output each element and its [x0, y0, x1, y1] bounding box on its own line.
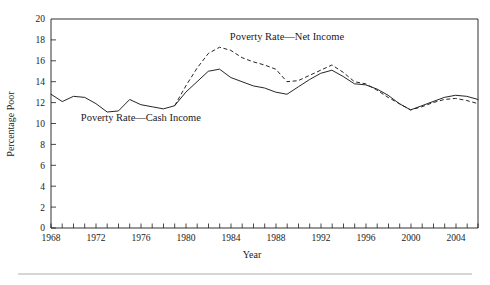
y-tick-label: 8	[40, 140, 45, 150]
y-tick-group-6: 12	[36, 98, 57, 108]
x-tick-label: 1992	[312, 233, 331, 243]
annotation-cash-income: Poverty Rate—Cash Income	[81, 112, 201, 123]
series-line-net-income	[175, 47, 478, 110]
plot-frame	[51, 19, 478, 228]
y-tick-label: 10	[36, 119, 46, 129]
y-tick-group-4: 8	[40, 140, 56, 150]
y-tick-group-1: 2	[40, 203, 56, 213]
axis-spines	[51, 19, 478, 228]
y-tick-group-2: 4	[40, 182, 56, 192]
x-tick-label: 1968	[42, 233, 61, 243]
x-tick-label: 1984	[222, 233, 241, 243]
line-chart: 0 2 4 6 8 10 1	[0, 0, 490, 285]
y-tick-label: 12	[36, 98, 46, 108]
y-tick-label: 20	[36, 14, 46, 24]
y-tick-group-7: 14	[36, 77, 57, 87]
x-tick-label: 1988	[267, 233, 286, 243]
y-tick-group-3: 6	[40, 161, 56, 171]
y-tick-group-0: 0	[40, 223, 56, 233]
y-axis-title: Percentage Poor	[5, 91, 16, 157]
x-tick-label: 2004	[447, 233, 466, 243]
y-tick-group-9: 18	[36, 35, 57, 45]
y-tick-label: 16	[36, 56, 46, 66]
y-tick-group-5: 10	[36, 119, 57, 129]
y-tick-group-8: 16	[36, 56, 57, 66]
y-tick-label: 0	[40, 223, 45, 233]
x-tick-label: 1996	[357, 233, 376, 243]
y-tick-label: 6	[40, 161, 45, 171]
y-tick-label: 18	[36, 35, 46, 45]
x-tick-label: 1976	[132, 233, 151, 243]
annotation-net-income: Poverty Rate—Net Income	[230, 31, 345, 42]
figure-container: 0 2 4 6 8 10 1	[0, 0, 490, 285]
series-line-cash-income	[51, 69, 478, 112]
y-tick-label: 4	[40, 182, 45, 192]
y-tick-label: 14	[36, 77, 46, 87]
y-tick-group-10: 20	[36, 14, 46, 24]
y-axis: 0 2 4 6 8 10 1	[36, 14, 57, 233]
x-tick-label: 1972	[87, 233, 106, 243]
x-axis-ticks	[51, 224, 478, 229]
x-axis-labels: 1968 1972 1976 1980 1984 1988 1992 1996 …	[42, 233, 466, 243]
x-tick-label: 1980	[177, 233, 196, 243]
x-axis-title: Year	[243, 249, 262, 260]
x-tick-label: 2000	[402, 233, 421, 243]
y-tick-label: 2	[40, 203, 45, 213]
